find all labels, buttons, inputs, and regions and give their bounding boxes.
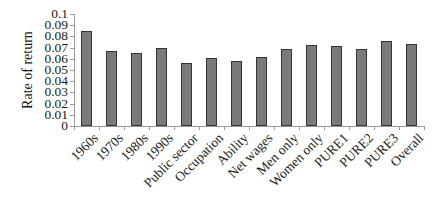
y-tick	[70, 81, 74, 82]
x-tick	[99, 126, 100, 130]
x-tick	[149, 126, 150, 130]
bar-1960s	[81, 31, 92, 126]
y-tick	[70, 104, 74, 105]
x-tick	[74, 126, 75, 130]
bar-occupation	[206, 58, 217, 126]
x-tick-label: 1960s	[68, 131, 100, 163]
bar-overall	[406, 44, 417, 126]
x-tick	[174, 126, 175, 130]
x-tick	[299, 126, 300, 130]
bar-women-only	[306, 45, 317, 126]
y-tick	[70, 36, 74, 37]
y-tick	[70, 25, 74, 26]
bar-pure3	[381, 41, 392, 126]
y-tick	[70, 48, 74, 49]
bar-1970s	[106, 51, 117, 126]
y-tick	[70, 70, 74, 71]
x-tick	[274, 126, 275, 130]
y-tick	[70, 59, 74, 60]
x-tick	[199, 126, 200, 130]
x-tick-label: 1970s	[93, 131, 125, 163]
x-tick	[324, 126, 325, 130]
x-tick	[349, 126, 350, 130]
bar-pure2	[356, 49, 367, 126]
bar-public-sector	[181, 63, 192, 126]
bar-chart: Rate of return 00.010.020.030.040.050.06…	[0, 0, 447, 201]
y-tick	[70, 14, 74, 15]
bar-pure1	[331, 46, 342, 126]
x-tick	[374, 126, 375, 130]
x-tick	[424, 126, 425, 130]
bar-1990s	[156, 48, 167, 126]
x-tick	[249, 126, 250, 130]
y-axis-line	[74, 14, 75, 126]
y-tick-label: 0.1	[28, 7, 68, 21]
y-tick	[70, 92, 74, 93]
bar-1980s	[131, 53, 142, 126]
x-tick	[124, 126, 125, 130]
bar-ability	[231, 61, 242, 126]
y-tick	[70, 115, 74, 116]
bar-net-wages	[256, 57, 267, 126]
bar-men-only	[281, 49, 292, 126]
x-tick	[399, 126, 400, 130]
x-tick-label: 1980s	[118, 131, 150, 163]
x-tick	[224, 126, 225, 130]
